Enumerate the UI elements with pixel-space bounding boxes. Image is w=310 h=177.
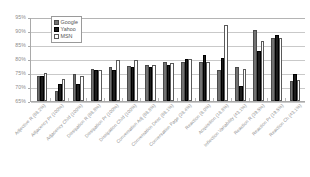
- bar-group: [87, 18, 105, 101]
- chart-legend: Google Yahoo MSN: [51, 16, 82, 43]
- bar-group: [214, 18, 232, 101]
- bar-group: [268, 18, 286, 101]
- legend-label-google: Google: [61, 20, 78, 25]
- bar-group: [178, 18, 196, 101]
- bar-group: [105, 18, 123, 101]
- legend-swatch-yahoo: [54, 27, 59, 32]
- legend-item-msn: MSN: [54, 33, 78, 40]
- bar-group: [250, 18, 268, 101]
- bar-group: [196, 18, 214, 101]
- bar-msn: [44, 73, 48, 101]
- bar-msn: [152, 65, 156, 101]
- bar-group: [33, 18, 51, 101]
- x-axis-tick-label: Adjacency Pr (100%): [30, 103, 65, 138]
- legend-swatch-google: [54, 20, 59, 25]
- x-axis-tick-label: Adjective R (88.2%): [14, 103, 47, 136]
- y-axis-tick-label: 70%: [0, 85, 26, 90]
- bar-msn: [206, 62, 210, 101]
- bar-group: [286, 18, 304, 101]
- y-axis-tick-label: 85%: [0, 43, 26, 48]
- bar-msn: [170, 63, 174, 101]
- x-axis-labels: Adjective R (88.2%)Adjacency Pr (100%)Ad…: [31, 103, 305, 177]
- bar-msn: [243, 69, 247, 101]
- legend-item-google: Google: [54, 19, 78, 26]
- y-axis-tick-label: 75%: [0, 71, 26, 76]
- bar-msn: [80, 76, 84, 101]
- x-axis-tick-label: Dissipation R (88.8%): [66, 103, 102, 139]
- legend-item-yahoo: Yahoo: [54, 26, 78, 33]
- legend-swatch-msn: [54, 34, 59, 39]
- bar-msn: [224, 25, 228, 101]
- y-axis-tick-label: 90%: [0, 29, 26, 34]
- bar-msn: [297, 80, 301, 101]
- legend-label-yahoo: Yahoo: [61, 27, 76, 32]
- bar-group: [159, 18, 177, 101]
- bar-msn: [98, 70, 102, 101]
- bar-msn: [116, 60, 120, 101]
- y-axis-tick-mark: [28, 102, 30, 103]
- legend-label-msn: MSN: [61, 34, 73, 39]
- y-axis-tick-label: 80%: [0, 57, 26, 62]
- plot-area: Google Yahoo MSN: [30, 18, 305, 102]
- x-axis-tick-label: Reaction Ch (43.1%): [268, 103, 302, 137]
- bar-msn: [62, 79, 66, 101]
- bar-msn: [279, 38, 283, 101]
- bar-chart: 95%90%85%80%75%70%65% Google Yahoo MSN A…: [0, 0, 310, 177]
- y-axis-tick-label: 95%: [0, 15, 26, 20]
- y-axis-tick-label: 65%: [0, 99, 26, 104]
- bar-group: [141, 18, 159, 101]
- bar-msn: [188, 59, 192, 101]
- bar-msn: [134, 60, 138, 101]
- bar-msn: [261, 41, 265, 101]
- bar-group: [123, 18, 141, 101]
- bar-group: [232, 18, 250, 101]
